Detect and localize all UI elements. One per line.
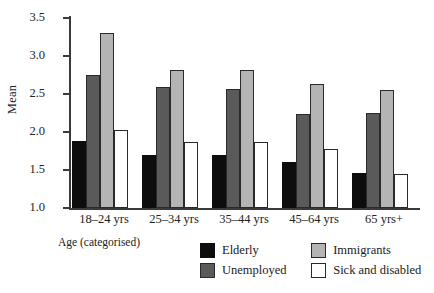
bar-elderly <box>212 155 226 208</box>
bar-unemployed <box>296 114 310 208</box>
legend-item-label: Immigrants <box>333 243 391 258</box>
legend-swatch-icon <box>200 263 215 278</box>
bar-sick-and-disabled <box>254 142 268 208</box>
bar-unemployed <box>156 87 170 208</box>
bar-group <box>209 18 279 208</box>
x-axis-tick-label: 65 yrs+ <box>349 212 419 227</box>
x-axis-tick-label: 25–34 yrs <box>139 212 209 227</box>
y-axis-tick-label: 3.5 <box>11 10 45 25</box>
bar-sick-and-disabled <box>394 174 408 208</box>
legend-item-immigrants: Immigrants <box>311 243 432 258</box>
bar-immigrants <box>380 90 394 208</box>
bar-immigrants <box>240 70 254 208</box>
legend-swatch-icon <box>311 263 326 278</box>
chart-legend: Elderly Immigrants Unemployed Sick and d… <box>200 243 432 278</box>
bar-elderly <box>352 173 366 208</box>
legend-item-label: Elderly <box>222 243 259 258</box>
legend-swatch-icon <box>311 243 326 258</box>
legend-item-elderly: Elderly <box>200 243 297 258</box>
bar-elderly <box>72 141 86 208</box>
bar-elderly <box>142 155 156 208</box>
bar-group <box>349 18 419 208</box>
x-axis-line <box>69 208 420 210</box>
bar-sick-and-disabled <box>114 130 128 208</box>
x-axis-tick-label: 45–64 yrs <box>279 212 349 227</box>
bar-unemployed <box>86 75 100 208</box>
y-axis-tick-label: 1.0 <box>11 200 45 215</box>
x-axis-tick-label: 35–44 yrs <box>209 212 279 227</box>
bar-sick-and-disabled <box>184 142 198 208</box>
x-axis-tick-label: 18–24 yrs <box>69 212 139 227</box>
legend-item-label: Sick and disabled <box>333 263 421 278</box>
bar-immigrants <box>100 33 114 208</box>
bar-immigrants <box>310 84 324 208</box>
y-axis-tick-label: 2.0 <box>11 124 45 139</box>
bar-unemployed <box>226 89 240 208</box>
legend-swatch-icon <box>200 243 215 258</box>
bar-sick-and-disabled <box>324 149 338 208</box>
legend-item-sick-and-disabled: Sick and disabled <box>311 263 432 278</box>
bar-elderly <box>282 162 296 208</box>
y-axis-tick-label: 3.0 <box>11 48 45 63</box>
y-axis-tick-label: 2.5 <box>11 86 45 101</box>
bar-immigrants <box>170 70 184 208</box>
y-axis-tick-label: 1.5 <box>11 162 45 177</box>
bar-unemployed <box>366 113 380 208</box>
legend-item-unemployed: Unemployed <box>200 263 297 278</box>
bar-group <box>69 18 139 208</box>
bar-chart: Mean 3.53.02.52.01.51.0 18–24 yrs25–34 y… <box>0 0 434 293</box>
legend-item-label: Unemployed <box>222 263 287 278</box>
bar-group <box>139 18 209 208</box>
bar-group <box>279 18 349 208</box>
x-axis-title: Age (categorised) <box>58 236 140 248</box>
plot-area: 3.53.02.52.01.51.0 <box>69 18 419 208</box>
